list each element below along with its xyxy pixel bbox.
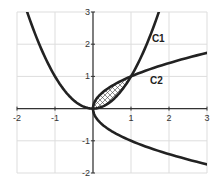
y-tick-label: -1 bbox=[82, 136, 90, 146]
shaded-region bbox=[93, 76, 131, 108]
x-tick-label: 2 bbox=[166, 113, 171, 123]
curve-label-c2: C2 bbox=[150, 75, 163, 86]
x-tick-label: -2 bbox=[13, 113, 21, 123]
curve-label-c1: C1 bbox=[152, 33, 165, 44]
y-tick-label: -2 bbox=[82, 168, 90, 178]
x-tick-label: 1 bbox=[128, 113, 133, 123]
y-tick-label: 1 bbox=[85, 71, 90, 81]
function-plot: -2-1123-2-1123 C1 C2 bbox=[0, 0, 214, 186]
y-tick-label: 2 bbox=[85, 39, 90, 49]
y-tick-label: 3 bbox=[85, 7, 90, 17]
x-tick-label: -1 bbox=[51, 113, 59, 123]
x-tick-label: 3 bbox=[204, 113, 209, 123]
